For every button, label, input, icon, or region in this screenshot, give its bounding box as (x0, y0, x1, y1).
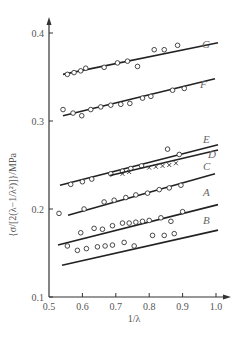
circle-marker-icon (172, 231, 177, 236)
chart: 0.50.60.70.80.91.0 0.10.20.30.4 1/λ {σ/[… (0, 0, 250, 338)
circle-marker-icon (79, 113, 84, 118)
fit-line (63, 79, 215, 116)
circle-marker-icon (134, 193, 139, 198)
circle-marker-icon (112, 198, 117, 203)
circle-marker-icon (89, 177, 94, 182)
circle-marker-icon (88, 107, 93, 112)
fit-line (110, 150, 218, 176)
x-tick-label: 0.7 (110, 301, 123, 312)
circle-marker-icon (140, 96, 145, 101)
series-label-D: D (207, 148, 216, 160)
series-E: E (60, 133, 218, 187)
circle-marker-icon (68, 182, 73, 187)
circle-marker-icon (149, 94, 154, 99)
x-axis-arrow-icon (223, 295, 231, 300)
y-tick-label: 0.1 (32, 292, 45, 303)
circle-marker-icon (179, 183, 184, 188)
circle-marker-icon (108, 103, 113, 108)
circle-marker-icon (180, 209, 185, 214)
cross-marker-icon (161, 164, 165, 168)
series-label-E: E (202, 133, 210, 145)
circle-marker-icon (175, 43, 180, 48)
circle-marker-icon (80, 179, 85, 184)
y-tick-label: 0.2 (32, 204, 45, 215)
circle-marker-icon (128, 101, 133, 106)
circle-marker-icon (84, 246, 89, 251)
circle-marker-icon (95, 245, 100, 250)
x-tick-label: 0.9 (176, 301, 189, 312)
circle-marker-icon (177, 152, 182, 157)
series-D: D (110, 148, 218, 176)
circle-marker-icon (71, 111, 76, 116)
circle-marker-icon (98, 105, 103, 110)
circle-marker-icon (152, 47, 157, 52)
circle-marker-icon (122, 240, 127, 245)
series-label-F: F (199, 78, 207, 90)
circle-marker-icon (135, 64, 140, 69)
series-layer: GFEDCAB (57, 38, 218, 265)
circle-marker-icon (102, 65, 107, 70)
circle-marker-icon (57, 211, 62, 216)
circle-marker-icon (159, 216, 164, 221)
series-label-C: C (203, 160, 211, 172)
circle-marker-icon (110, 223, 115, 228)
series-C: C (57, 160, 215, 216)
circle-marker-icon (110, 243, 115, 248)
circle-marker-icon (167, 186, 172, 191)
y-axis-title: {σ/[2(λ−1/λ²)]}/MPa (7, 153, 19, 237)
circle-marker-icon (75, 248, 80, 253)
circle-marker-icon (102, 200, 107, 205)
x-tick-label: 0.6 (76, 301, 89, 312)
series-G: G (63, 38, 218, 77)
circle-marker-icon (92, 226, 97, 231)
circle-marker-icon (65, 244, 70, 249)
circle-marker-icon (145, 191, 150, 196)
series-label-G: G (202, 38, 210, 50)
circle-marker-icon (157, 187, 162, 192)
series-label-B: B (203, 214, 210, 226)
circle-marker-icon (162, 233, 167, 238)
circle-marker-icon (125, 59, 130, 64)
circle-marker-icon (150, 233, 155, 238)
circle-marker-icon (182, 86, 187, 91)
circle-marker-icon (124, 195, 129, 200)
y-ticks: 0.10.20.30.4 (32, 28, 54, 303)
circle-marker-icon (78, 230, 83, 235)
x-tick-label: 1.0 (210, 301, 223, 312)
x-tick-label: 0.5 (43, 301, 56, 312)
circle-marker-icon (165, 147, 170, 152)
x-axis-title: 1/λ (128, 313, 141, 324)
circle-marker-icon (115, 61, 120, 66)
circle-marker-icon (100, 227, 105, 232)
circle-marker-icon (83, 66, 88, 71)
circle-marker-icon (82, 207, 87, 212)
circle-marker-icon (162, 47, 167, 52)
circle-marker-icon (103, 244, 108, 249)
x-ticks: 0.50.60.70.80.91.0 (43, 293, 223, 312)
series-label-A: A (202, 186, 210, 198)
circle-marker-icon (132, 244, 137, 249)
circle-marker-icon (120, 221, 125, 226)
circle-marker-icon (169, 219, 174, 224)
circle-marker-icon (127, 221, 132, 226)
y-axis-arrow-icon (47, 17, 52, 25)
circle-marker-icon (170, 88, 175, 93)
circle-marker-icon (140, 219, 145, 224)
circle-marker-icon (61, 107, 66, 112)
y-tick-label: 0.4 (32, 28, 45, 39)
cross-marker-icon (174, 161, 178, 165)
circle-marker-icon (72, 70, 77, 75)
circle-marker-icon (134, 220, 139, 225)
circle-marker-icon (65, 72, 70, 77)
circle-marker-icon (147, 218, 152, 223)
circle-marker-icon (119, 102, 124, 107)
series-F: F (61, 78, 215, 118)
cross-marker-icon (167, 163, 171, 167)
x-tick-label: 0.8 (143, 301, 156, 312)
circle-marker-icon (78, 69, 83, 74)
y-tick-label: 0.3 (32, 116, 45, 127)
